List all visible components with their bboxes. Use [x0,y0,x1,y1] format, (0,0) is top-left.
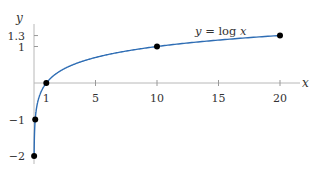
x-tick-label: 20 [273,92,287,105]
data-point [31,153,37,159]
log-chart: 15101520−2−111.3 x y y = log x [0,0,314,170]
curve-annotation: y = log x [194,24,247,38]
x-tick-label: 15 [212,92,226,105]
chart-svg: 15101520−2−111.3 x y y = log x [0,0,314,170]
x-tick-label: 1 [43,92,50,105]
y-axis-label: y [15,11,23,25]
x-axis-label: x [302,76,309,90]
y-tick-label: −2 [9,150,25,163]
data-point [43,80,49,86]
x-tick-label: 10 [150,92,164,105]
y-tick-label: −1 [9,114,25,127]
y-tick-label: 1.3 [8,30,26,43]
x-tick-label: 5 [92,92,99,105]
ticks: 15101520−2−111.3 [8,30,288,163]
data-point [154,44,160,50]
data-point [277,33,283,39]
data-point [32,117,38,123]
